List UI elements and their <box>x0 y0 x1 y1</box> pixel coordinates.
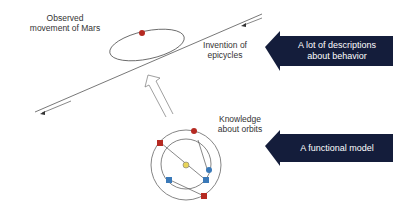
direction-line-upper <box>244 18 262 25</box>
descriptions-line-2: about behavior <box>307 51 367 62</box>
mars-dot <box>139 30 145 36</box>
epicycles-label: Invention of epicycles <box>190 40 260 60</box>
model-line-1: A functional model <box>300 143 374 154</box>
hollow-arrow-icon <box>145 75 173 117</box>
knowledge-label-line-1: Knowledge <box>213 114 267 124</box>
knowledge-label-line-2: about orbits <box>213 124 267 134</box>
mars-position-3 <box>201 193 207 199</box>
observed-label-line-1: Observed <box>20 13 110 23</box>
retrograde-loop <box>107 23 187 66</box>
orbit-diagram <box>151 128 221 200</box>
arrowhead-lower <box>40 111 45 115</box>
sight-line-3 <box>198 140 208 172</box>
sight-line-1 <box>161 143 207 181</box>
epicycles-label-line-2: epicycles <box>190 50 260 60</box>
arrowhead-upper <box>241 23 246 27</box>
earth-position-3 <box>203 177 209 183</box>
model-box-text: A functional model <box>282 134 392 162</box>
observed-label: Observed movement of Mars <box>20 13 110 33</box>
earth-position-2 <box>166 177 172 183</box>
descriptions-box-text: A lot of descriptions about behavior <box>282 36 392 66</box>
earth-position-1 <box>206 167 212 173</box>
observed-label-line-2: movement of Mars <box>20 23 110 33</box>
epicycles-label-line-1: Invention of <box>190 40 260 50</box>
mars-position-2 <box>191 128 197 134</box>
sun-icon <box>183 162 189 168</box>
mars-position-1 <box>157 140 163 146</box>
knowledge-label: Knowledge about orbits <box>213 114 267 134</box>
sight-line-2 <box>170 180 204 196</box>
descriptions-line-1: A lot of descriptions <box>298 40 376 51</box>
